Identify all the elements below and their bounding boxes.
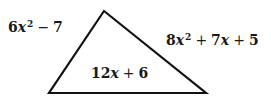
right-var: x bbox=[176, 32, 184, 48]
right-side-label: 8x2+7x+5 bbox=[166, 33, 259, 49]
right-coef: 8 bbox=[166, 32, 176, 48]
bottom-const: 6 bbox=[139, 65, 149, 81]
right-op2: + bbox=[233, 32, 245, 48]
right-const: 5 bbox=[249, 32, 259, 48]
left-var: x bbox=[18, 19, 26, 35]
bottom-var: x bbox=[110, 65, 118, 81]
left-side-label: 6x2−7 bbox=[8, 20, 63, 36]
right-coef2: 7 bbox=[211, 32, 221, 48]
left-op: − bbox=[37, 19, 49, 35]
bottom-coef: 12 bbox=[91, 65, 110, 81]
left-const: 7 bbox=[53, 19, 63, 35]
right-var2: x bbox=[221, 32, 229, 48]
right-exp: 2 bbox=[185, 32, 191, 42]
triangle-diagram: 6x2−7 8x2+7x+5 12x+6 bbox=[0, 0, 271, 97]
left-coef: 6 bbox=[8, 19, 18, 35]
left-exp: 2 bbox=[27, 19, 33, 29]
right-op1: + bbox=[195, 32, 207, 48]
bottom-op: + bbox=[123, 65, 135, 81]
bottom-side-label: 12x+6 bbox=[91, 66, 148, 80]
